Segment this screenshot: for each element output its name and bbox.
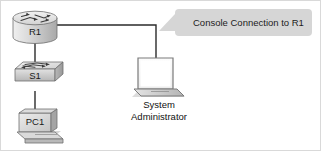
network-diagram: R1 S1: [0, 0, 321, 151]
pc-label: PC1: [26, 116, 44, 127]
callout-bubble: Console Connection to R1: [159, 9, 312, 36]
desktop-pc-icon: PC1: [17, 109, 63, 143]
laptop-caption-line2: Administrator: [131, 111, 187, 122]
router-icon: R1: [13, 11, 57, 43]
laptop-caption-line1: System: [143, 99, 175, 110]
router-label: R1: [29, 26, 41, 37]
diagram-canvas: R1 S1: [1, 1, 321, 151]
switch-label: S1: [29, 70, 41, 81]
laptop-icon: System Administrator: [131, 58, 187, 122]
link-console: [51, 25, 156, 58]
callout-label: Console Connection to R1: [193, 17, 304, 28]
switch-icon: S1: [15, 62, 63, 81]
